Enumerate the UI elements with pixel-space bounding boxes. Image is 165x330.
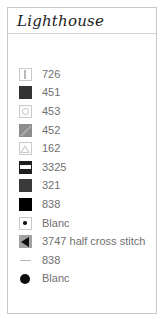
square-vertical-bar-symbol	[19, 68, 32, 81]
legend-row-label: 162	[42, 143, 60, 154]
symbol-mark	[19, 161, 32, 174]
symbol-mark	[20, 218, 31, 229]
symbol-mark	[19, 235, 32, 248]
legend-row: 3325	[8, 158, 156, 177]
legend-row: 3747 half cross stitch	[8, 232, 156, 251]
legend-row: 726	[8, 65, 156, 84]
legend-symbol-cell	[8, 142, 42, 155]
legend-symbol-cell	[8, 68, 42, 81]
square-triangle-outline-symbol	[19, 142, 32, 155]
legend-symbol-cell	[8, 217, 42, 230]
legend-row: 452	[8, 121, 156, 140]
legend-symbol-cell	[8, 272, 42, 285]
legend-symbol-cell	[8, 86, 42, 99]
legend-symbol-cell	[8, 198, 42, 211]
legend-symbol-cell	[8, 235, 42, 248]
symbol-mark	[19, 272, 32, 285]
legend-row: 838	[8, 195, 156, 214]
backstitch-line-symbol	[19, 254, 32, 267]
white-square-dot-symbol	[19, 217, 32, 230]
legend-row-label: 838	[42, 255, 60, 266]
symbol-mark	[19, 124, 32, 137]
legend-row: 162	[8, 139, 156, 158]
square-circle-symbol	[19, 105, 32, 118]
gray-square-left-triangle-symbol	[19, 235, 32, 248]
legend-row-label: 838	[42, 199, 60, 210]
legend-row-label: 451	[42, 87, 60, 98]
legend-row: 838	[8, 251, 156, 270]
dark-square-horizontal-band-symbol	[19, 161, 32, 174]
legend-row: 453	[8, 102, 156, 121]
legend-row: Blanc	[8, 214, 156, 233]
legend-row-list: 7264514534521623325321838Blanc3747 half …	[8, 65, 156, 288]
legend-row-label: Blanc	[42, 218, 70, 229]
symbol-mark	[20, 69, 31, 80]
filled-dark-gray-square-symbol	[19, 179, 32, 192]
legend-row: Blanc	[8, 270, 156, 289]
gray-square-diagonal-symbol	[19, 124, 32, 137]
legend-row-label: 726	[42, 69, 60, 80]
legend-row: 451	[8, 84, 156, 103]
legend-row-label: 452	[42, 125, 60, 136]
symbol-mark	[20, 106, 31, 117]
french-knot-dot-symbol	[19, 272, 32, 285]
legend-symbol-cell	[8, 105, 42, 118]
legend-row-label: 3325	[42, 162, 66, 173]
legend-symbol-cell	[8, 254, 42, 267]
symbol-mark	[19, 254, 32, 267]
legend-row: 321	[8, 177, 156, 196]
legend-symbol-cell	[8, 161, 42, 174]
legend-row-label: 453	[42, 106, 60, 117]
filled-dark-square-symbol	[19, 86, 32, 99]
legend-symbol-cell	[8, 179, 42, 192]
title-divider	[8, 33, 156, 34]
page-title: Lighthouse	[17, 12, 104, 30]
symbol-mark	[20, 143, 31, 154]
legend-row-label: 321	[42, 180, 60, 191]
filled-black-square-symbol	[19, 198, 32, 211]
legend-row-label: Blanc	[42, 273, 70, 284]
legend-row-label: 3747 half cross stitch	[42, 236, 145, 247]
legend-symbol-cell	[8, 124, 42, 137]
legend-card: Lighthouse 7264514534521623325321838Blan…	[7, 7, 157, 314]
